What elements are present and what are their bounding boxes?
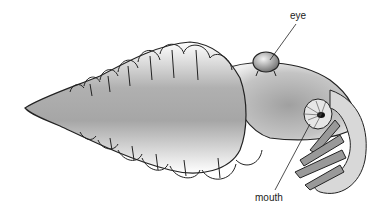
- eye-label: eye: [290, 10, 306, 21]
- mouth: [304, 99, 332, 129]
- body: [25, 42, 262, 179]
- illustration: eye mouth: [0, 0, 386, 216]
- creature-drawing: [0, 0, 386, 216]
- mouth-label: mouth: [255, 192, 283, 203]
- eye-leader-line: [270, 24, 296, 60]
